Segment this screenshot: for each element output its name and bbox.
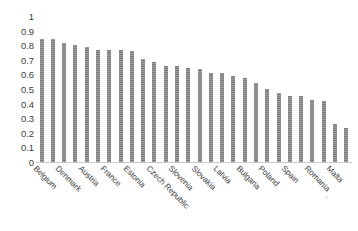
bars-layer	[36, 17, 352, 162]
x-axis-baseline	[36, 162, 352, 163]
bar[interactable]	[73, 45, 77, 162]
y-tick-label: 0	[8, 158, 34, 168]
y-tick-label: 0.5	[8, 85, 34, 95]
bar[interactable]	[198, 69, 202, 162]
bar-slot	[228, 17, 239, 162]
x-axis: BelgiumDenmarkAustriaFranceEstoniaCzech …	[36, 164, 352, 231]
bar[interactable]	[333, 124, 337, 162]
bar-slot	[329, 17, 340, 162]
bar-slot	[70, 17, 81, 162]
bar-slot	[183, 17, 194, 162]
bar-slot	[262, 17, 273, 162]
bar[interactable]	[209, 73, 213, 162]
bar[interactable]	[220, 73, 224, 162]
x-tick-label: France	[99, 164, 123, 188]
x-tick-label: Estonia	[122, 164, 147, 189]
bar-slot	[273, 17, 284, 162]
bar[interactable]	[51, 39, 55, 162]
bar-slot	[104, 17, 115, 162]
y-tick-label: 0.9	[8, 27, 34, 37]
bar-slot	[194, 17, 205, 162]
bar[interactable]	[243, 78, 247, 162]
bar-slot	[341, 17, 352, 162]
bar[interactable]	[107, 50, 111, 162]
bar-slot	[318, 17, 329, 162]
bar[interactable]	[141, 59, 145, 162]
bar-slot	[250, 17, 261, 162]
y-tick-label: 0.1	[8, 143, 34, 153]
bar-slot	[59, 17, 70, 162]
plot-area	[36, 17, 352, 163]
bar-slot	[47, 17, 58, 162]
bar-chart-figure: 10.90.80.70.60.50.40.30.20.10 BelgiumDen…	[0, 0, 358, 231]
bar[interactable]	[175, 66, 179, 162]
bar-slot	[126, 17, 137, 162]
y-tick-label: 0.8	[8, 41, 34, 51]
bar[interactable]	[40, 39, 44, 162]
y-tick-label: 0.4	[8, 100, 34, 110]
bar-slot	[92, 17, 103, 162]
bar[interactable]	[119, 50, 123, 162]
bar[interactable]	[96, 50, 100, 162]
bar-slot	[149, 17, 160, 162]
bar[interactable]	[344, 128, 348, 162]
x-tick-label: Spain	[280, 164, 301, 185]
bar[interactable]	[62, 43, 66, 162]
bar-slot	[307, 17, 318, 162]
bar[interactable]	[186, 68, 190, 162]
y-tick-label: 0.6	[8, 70, 34, 80]
y-tick-label: 0.2	[8, 129, 34, 139]
bar[interactable]	[254, 83, 258, 162]
bar-slot	[295, 17, 306, 162]
bar-slot	[160, 17, 171, 162]
bar[interactable]	[130, 51, 134, 162]
x-tick-label: Malta	[325, 164, 345, 184]
y-tick-label: 0.3	[8, 114, 34, 124]
bar[interactable]	[164, 66, 168, 162]
bar[interactable]	[152, 62, 156, 162]
bar-slot	[217, 17, 228, 162]
bar[interactable]	[299, 96, 303, 162]
bar-slot	[205, 17, 216, 162]
bar[interactable]	[231, 76, 235, 162]
bar[interactable]	[288, 96, 292, 162]
bar-slot	[138, 17, 149, 162]
bar-slot	[284, 17, 295, 162]
faint-artifact-mark	[325, 196, 328, 199]
bar[interactable]	[322, 101, 326, 162]
bar[interactable]	[265, 89, 269, 162]
bar[interactable]	[310, 100, 314, 162]
y-axis: 10.90.80.70.60.50.40.30.20.10	[8, 12, 34, 164]
y-tick-label: 0.7	[8, 56, 34, 66]
bar-slot	[115, 17, 126, 162]
bar[interactable]	[85, 47, 89, 162]
bar[interactable]	[277, 93, 281, 162]
bar-slot	[36, 17, 47, 162]
bar-slot	[239, 17, 250, 162]
bar-slot	[81, 17, 92, 162]
y-tick-label: 1	[8, 12, 34, 22]
bar-slot	[171, 17, 182, 162]
